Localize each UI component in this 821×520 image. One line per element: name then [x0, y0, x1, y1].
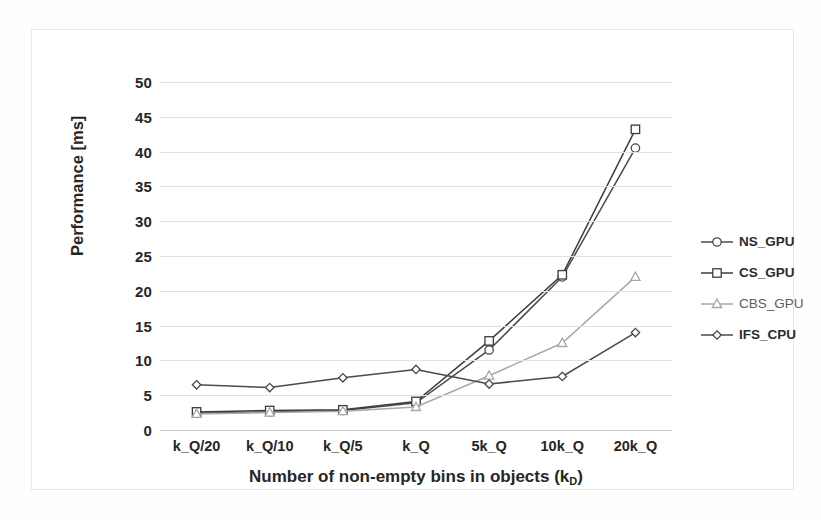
y-tick-label: 15	[135, 317, 152, 334]
y-tick-label: 20	[135, 282, 152, 299]
legend-item-ns-gpu[interactable]: NS_GPU	[700, 226, 816, 257]
gridline	[160, 152, 672, 153]
gridline	[160, 395, 672, 396]
y-tick-label: 35	[135, 178, 152, 195]
legend-item-cbs-gpu[interactable]: CBS_GPU	[700, 288, 816, 319]
x-axis-title: Number of non-empty bins in objects (kD)	[160, 467, 672, 487]
gridline	[160, 256, 672, 257]
legend-item-ifs-cpu[interactable]: IFS_CPU	[700, 319, 816, 350]
y-axis-tick-labels: 05101520253035404550	[106, 82, 152, 430]
x-axis-tick-labels: k_Q/20k_Q/10k_Q/5k_Q5k_Q10k_Q20k_Q	[160, 438, 672, 462]
legend-label: CBS_GPU	[739, 296, 804, 311]
gridline	[160, 82, 672, 83]
square-marker	[700, 266, 734, 280]
gridline	[160, 221, 672, 222]
x-axis-title-subscript: D	[569, 475, 577, 487]
gridline	[160, 326, 672, 327]
legend-item-cs-gpu[interactable]: CS_GPU	[700, 257, 816, 288]
diamond-marker	[700, 328, 734, 342]
plot-area	[160, 82, 672, 430]
chart-legend: NS_GPUCS_GPUCBS_GPUIFS_CPU	[700, 226, 816, 350]
x-tick-label: 5k_Q	[471, 438, 506, 454]
y-tick-label: 50	[135, 74, 152, 91]
y-tick-label: 30	[135, 213, 152, 230]
gridline	[160, 117, 672, 118]
gridline	[160, 360, 672, 361]
legend-label: CS_GPU	[739, 265, 795, 280]
legend-label: IFS_CPU	[739, 327, 796, 342]
gridline	[160, 291, 672, 292]
y-tick-label: 25	[135, 248, 152, 265]
figure-canvas: Performance [ms] 05101520253035404550 k_…	[0, 0, 821, 520]
gridlines	[160, 82, 672, 430]
chart-frame: Performance [ms] 05101520253035404550 k_…	[31, 29, 794, 490]
legend-label: NS_GPU	[739, 234, 795, 249]
gridline	[160, 186, 672, 187]
circle-marker	[700, 235, 734, 249]
x-tick-label: k_Q/20	[173, 438, 221, 454]
y-axis-title: Performance [ms]	[68, 116, 87, 256]
x-tick-label: k_Q/10	[246, 438, 294, 454]
triangle-marker	[700, 297, 734, 311]
x-tick-label: k_Q	[402, 438, 429, 454]
x-tick-label: 20k_Q	[614, 438, 658, 454]
y-tick-label: 0	[143, 422, 152, 439]
y-tick-label: 45	[135, 108, 152, 125]
y-tick-label: 10	[135, 352, 152, 369]
x-tick-label: 10k_Q	[541, 438, 585, 454]
y-tick-label: 5	[143, 387, 152, 404]
y-tick-label: 40	[135, 143, 152, 160]
x-tick-label: k_Q/5	[323, 438, 363, 454]
gridline	[160, 430, 672, 431]
